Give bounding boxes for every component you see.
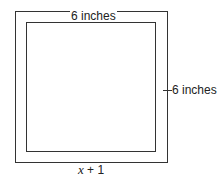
top-dimension-label: 6 inches	[70, 10, 117, 22]
bottom-dimension-label: x + 1	[78, 164, 104, 176]
bottom-expression-rest: + 1	[84, 163, 104, 177]
right-dimension-tick	[163, 90, 172, 91]
inner-square	[26, 22, 156, 152]
right-dimension-label: 6 inches	[172, 84, 217, 96]
